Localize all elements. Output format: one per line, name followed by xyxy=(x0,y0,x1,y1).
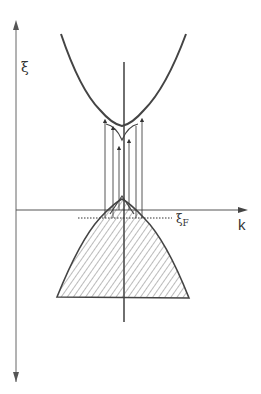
k-axis-arrow-icon xyxy=(238,207,248,213)
axis-arrow-up-icon xyxy=(13,20,19,30)
valence-band-fill xyxy=(57,199,189,298)
k-axis-label: k xyxy=(238,216,246,233)
xi-axis-label: ξ xyxy=(21,59,29,75)
fermi-label: ξF xyxy=(176,212,189,228)
xi-axis xyxy=(13,20,19,382)
axis-arrow-down-icon xyxy=(13,372,19,382)
band-structure-diagram: ξ k ξF xyxy=(0,0,261,394)
